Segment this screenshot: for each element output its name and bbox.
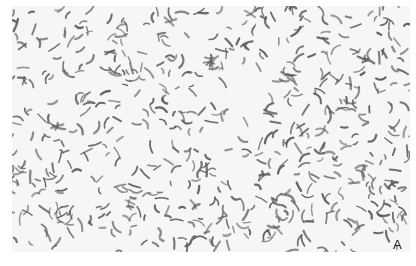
panel-label: A (393, 238, 402, 251)
bacterial-cells (12, 6, 410, 252)
bacteria-micrograph (12, 6, 410, 252)
figure-panel: A (0, 0, 416, 266)
